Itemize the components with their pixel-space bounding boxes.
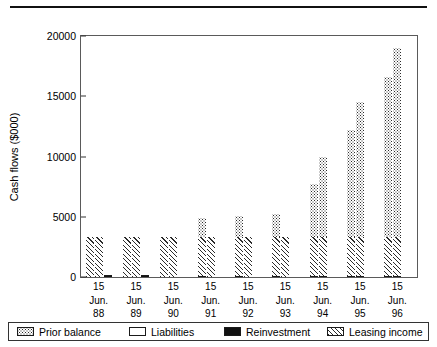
chart-bar[interactable] bbox=[365, 266, 373, 277]
x-axis-tick-line: 92 bbox=[229, 307, 266, 321]
bar-segment-liabilities bbox=[178, 259, 186, 277]
legend-item-leasing-income[interactable]: Leasing income bbox=[327, 326, 423, 338]
bar-segment-liabilities bbox=[290, 265, 298, 277]
legend-swatch-prior-balance bbox=[17, 327, 34, 336]
x-axis-tick-line: 15 bbox=[379, 280, 416, 294]
x-axis-tick-line: Jun. bbox=[229, 294, 266, 308]
chart-bar[interactable] bbox=[281, 238, 289, 277]
chart-bar[interactable] bbox=[347, 130, 355, 277]
x-axis-tick-line: 90 bbox=[155, 307, 192, 321]
x-axis-tick-line: 93 bbox=[267, 307, 304, 321]
bar-group bbox=[272, 36, 299, 277]
legend-label: Leasing income bbox=[349, 326, 423, 338]
bar-group bbox=[235, 36, 262, 277]
plot-inner: 05000100001500020000 bbox=[81, 36, 417, 277]
chart-bar[interactable] bbox=[86, 238, 94, 277]
x-axis-tick-line: Jun. bbox=[267, 294, 304, 308]
chart-bar[interactable] bbox=[95, 238, 103, 277]
x-axis-tick-label: 15Jun.88 bbox=[80, 280, 117, 321]
x-axis-tick-line: 15 bbox=[267, 280, 304, 294]
legend-label: Reinvestment bbox=[246, 326, 310, 338]
bar-group bbox=[310, 36, 337, 277]
bar-segment-reinvestment bbox=[104, 276, 112, 277]
legend-label: Prior balance bbox=[39, 326, 101, 338]
chart-bar[interactable] bbox=[141, 275, 149, 277]
bar-segment-leasing-income bbox=[347, 237, 355, 277]
x-axis-tick-line: 15 bbox=[117, 280, 154, 294]
bar-segment-prior-balance bbox=[235, 216, 243, 237]
bar-group bbox=[198, 36, 225, 277]
chart-bar[interactable] bbox=[319, 157, 327, 278]
bar-group bbox=[347, 36, 374, 277]
x-axis-tick-line: Jun. bbox=[117, 294, 154, 308]
chart-bar[interactable] bbox=[290, 266, 298, 277]
x-axis-tick-line: 94 bbox=[304, 307, 341, 321]
chart-page: Cash flows ($000) 05000100001500020000 1… bbox=[0, 0, 437, 347]
x-axis-tick-line: Jun. bbox=[341, 294, 378, 308]
chart-bar[interactable] bbox=[402, 266, 410, 277]
bar-group bbox=[384, 36, 411, 277]
x-axis-tick-line: Jun. bbox=[155, 294, 192, 308]
bar-segment-leasing-income bbox=[310, 237, 318, 277]
chart-bar[interactable] bbox=[104, 275, 112, 277]
chart-bar[interactable] bbox=[272, 214, 280, 277]
chart-bar[interactable] bbox=[207, 238, 215, 277]
y-axis-title: Cash flows ($000) bbox=[6, 35, 22, 278]
y-axis-tick-label: 20000 bbox=[47, 31, 76, 42]
chart-bar[interactable] bbox=[216, 259, 224, 277]
legend-label: Liabilities bbox=[151, 326, 194, 338]
chart-bar[interactable] bbox=[178, 260, 186, 277]
x-axis-tick-line: Jun. bbox=[304, 294, 341, 308]
bar-segment-prior-balance bbox=[272, 214, 280, 237]
chart-bar[interactable] bbox=[160, 238, 168, 277]
bar-segment-prior-balance bbox=[310, 184, 318, 237]
bar-segment-leasing-income bbox=[281, 237, 289, 277]
x-axis-tick-line: Jun. bbox=[379, 294, 416, 308]
chart-bar[interactable] bbox=[198, 218, 206, 277]
bar-segment-leasing-income bbox=[160, 237, 168, 277]
bar-segment-leasing-income bbox=[393, 237, 401, 277]
x-axis-tick-line: 91 bbox=[192, 307, 229, 321]
x-axis-tick-line: 15 bbox=[80, 280, 117, 294]
x-axis-tick-label: 15Jun.89 bbox=[117, 280, 154, 321]
bar-segment-liabilities bbox=[253, 262, 261, 277]
chart-bar[interactable] bbox=[132, 238, 140, 277]
chart-bar[interactable] bbox=[393, 48, 401, 277]
chart-bar[interactable] bbox=[310, 184, 318, 277]
chart-bar[interactable] bbox=[384, 77, 392, 277]
bar-segment-leasing-income bbox=[132, 237, 140, 277]
bar-segment-leasing-income bbox=[244, 237, 252, 277]
bar-segment-liabilities bbox=[216, 258, 224, 277]
chart-bar[interactable] bbox=[328, 266, 336, 277]
bar-group bbox=[123, 36, 150, 277]
legend-item-prior-balance[interactable]: Prior balance bbox=[17, 326, 101, 338]
legend-item-reinvestment[interactable]: Reinvestment bbox=[224, 326, 310, 338]
bar-segment-reinvestment bbox=[141, 276, 149, 277]
bar-segment-liabilities bbox=[402, 265, 410, 277]
y-axis-title-text: Cash flows ($000) bbox=[8, 112, 20, 201]
chart-bar[interactable] bbox=[169, 238, 177, 277]
bar-segment-leasing-income bbox=[272, 237, 280, 277]
x-axis-tick-label: 15Jun.95 bbox=[341, 280, 378, 321]
bar-segment-prior-balance bbox=[384, 77, 392, 237]
chart-bar[interactable] bbox=[235, 216, 243, 277]
legend-swatch-reinvestment bbox=[224, 327, 241, 336]
x-axis-tick-line: 15 bbox=[229, 280, 266, 294]
x-axis-tick-labels: 15Jun.8815Jun.8915Jun.9015Jun.9115Jun.92… bbox=[80, 280, 418, 326]
chart-bar[interactable] bbox=[356, 102, 364, 277]
x-axis-tick-label: 15Jun.91 bbox=[192, 280, 229, 321]
bar-segment-prior-balance bbox=[198, 218, 206, 237]
x-axis-tick-line: 95 bbox=[341, 307, 378, 321]
bar-segment-leasing-income bbox=[384, 237, 392, 277]
legend-item-liabilities[interactable]: Liabilities bbox=[129, 326, 194, 338]
x-axis-tick-label: 15Jun.94 bbox=[304, 280, 341, 321]
chart-bar[interactable] bbox=[244, 238, 252, 277]
x-axis-tick-line: 15 bbox=[192, 280, 229, 294]
chart-bar[interactable] bbox=[253, 263, 261, 277]
y-axis-tick-label: 5000 bbox=[53, 212, 76, 223]
bar-segment-leasing-income bbox=[207, 237, 215, 277]
top-divider-rule bbox=[10, 6, 427, 8]
chart-bar[interactable] bbox=[123, 238, 131, 277]
legend-swatch-leasing-income bbox=[327, 327, 344, 336]
plot-area: 05000100001500020000 bbox=[80, 35, 418, 278]
